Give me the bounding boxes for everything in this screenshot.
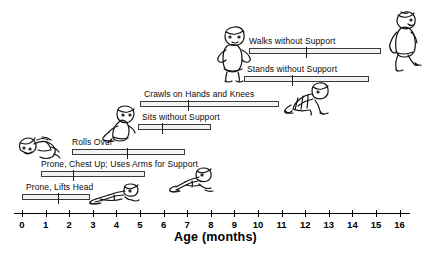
x-axis-tick-14	[352, 210, 353, 217]
milestone-bar-rolls-over	[72, 149, 185, 155]
median-marker-prone-lifts-head	[58, 193, 59, 204]
x-axis-tick-label-13: 13	[320, 219, 338, 230]
toddler-standing-icon	[213, 25, 255, 83]
x-axis-tick-10	[258, 210, 259, 217]
x-axis-tick-label-1: 1	[37, 219, 55, 230]
milestone-bar-crawls-on-hands-and-knees	[140, 101, 279, 107]
x-axis-tick-label-5: 5	[131, 219, 149, 230]
x-axis-tick-2	[69, 210, 70, 217]
x-axis-tick-label-8: 8	[202, 219, 220, 230]
x-axis-tick-7	[187, 210, 188, 217]
median-marker-rolls-over	[127, 148, 128, 159]
developmental-milestones-chart: Walks without Support Stands without Sup…	[0, 0, 431, 259]
x-axis-tick-13	[329, 210, 330, 217]
baby-crawling-icon	[282, 81, 334, 117]
x-axis-tick-16	[400, 210, 401, 217]
x-axis-tick-label-6: 6	[155, 219, 173, 230]
milestone-bar-prone-chest-up	[41, 171, 145, 177]
x-axis-tick-5	[140, 210, 141, 217]
milestone-label-prone-lifts-head: Prone, Lifts Head	[26, 183, 93, 192]
x-axis-tick-6	[164, 210, 165, 217]
x-axis-tick-label-12: 12	[296, 219, 314, 230]
x-axis-tick-label-4: 4	[107, 219, 125, 230]
milestone-bar-walks-without-support	[249, 48, 381, 54]
baby-rolling-icon	[16, 133, 62, 163]
x-axis-tick-0	[22, 210, 23, 217]
x-axis-tick-11	[282, 210, 283, 217]
milestone-label-sits-without-support: Sits without Support	[142, 113, 220, 122]
x-axis-tick-label-15: 15	[367, 219, 385, 230]
x-axis-tick-15	[376, 210, 377, 217]
x-axis-tick-label-10: 10	[249, 219, 267, 230]
x-axis-title: Age (months)	[0, 230, 431, 244]
milestone-bar-prone-lifts-head	[22, 194, 90, 200]
toddler-walking-icon	[381, 8, 427, 72]
x-axis-line	[14, 213, 410, 214]
baby-prone-lifting-head-icon	[88, 182, 140, 208]
baby-sitting-icon	[99, 104, 143, 144]
milestone-label-stands-without-support: Stands without Support	[247, 65, 337, 74]
milestone-label-walks-without-support: Walks without Support	[249, 37, 335, 46]
median-marker-crawls-on-hands-and-knees	[188, 100, 189, 111]
x-axis-tick-4	[116, 210, 117, 217]
x-axis-tick-label-0: 0	[13, 219, 31, 230]
median-marker-prone-chest-up	[73, 170, 74, 181]
milestone-label-crawls-on-hands-and-knees: Crawls on Hands and Knees	[144, 90, 254, 99]
baby-prone-chest-up-icon	[168, 166, 216, 196]
x-axis-tick-9	[234, 210, 235, 217]
median-marker-sits-without-support	[162, 123, 163, 134]
milestone-bar-sits-without-support	[138, 124, 211, 130]
x-axis-tick-label-9: 9	[225, 219, 243, 230]
x-axis-tick-label-14: 14	[343, 219, 361, 230]
x-axis-tick-8	[211, 210, 212, 217]
x-axis-tick-label-11: 11	[273, 219, 291, 230]
x-axis-tick-12	[305, 210, 306, 217]
x-axis-tick-label-16: 16	[391, 219, 409, 230]
x-axis-tick-label-7: 7	[178, 219, 196, 230]
median-marker-walks-without-support	[306, 47, 307, 58]
x-axis-tick-3	[93, 210, 94, 217]
x-axis-tick-label-3: 3	[84, 219, 102, 230]
x-axis-tick-label-2: 2	[60, 219, 78, 230]
x-axis-tick-1	[46, 210, 47, 217]
